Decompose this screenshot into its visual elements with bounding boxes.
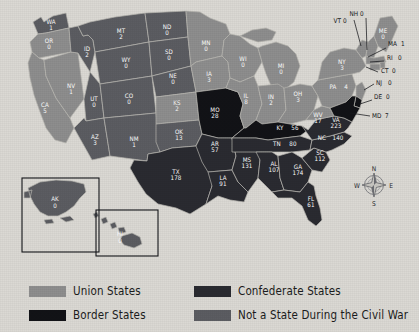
state-label-OR-value: 0	[47, 43, 51, 50]
state-label-OK-value: 13	[175, 134, 183, 141]
state-label-AZ-value: 3	[93, 139, 97, 146]
state-label-SC-value: 112	[315, 155, 326, 162]
state-label-LA-value: 91	[219, 180, 227, 187]
state-label-WY-value: 0	[124, 62, 128, 69]
callout-MA-code: MA	[388, 40, 397, 48]
callout-MD-code: MD	[372, 112, 382, 120]
state-label-MO-value: 28	[211, 112, 219, 119]
map-legend: Union States Confederate States Border S…	[0, 270, 419, 332]
inset-label-AK-value: 0	[53, 202, 57, 209]
state-label-TX-value: 178	[171, 174, 182, 181]
compass-north-label: N	[372, 165, 376, 173]
compass-west-label: W	[354, 182, 360, 190]
legend-item-union[interactable]: Union States	[29, 284, 141, 298]
state-label-KY-code: KY	[276, 124, 284, 131]
leader-line-VT	[354, 20, 361, 46]
inset-label-AK-code: AK	[51, 195, 59, 202]
inset-label-HI-code: HI	[117, 230, 123, 237]
state-label-NV-value: 1	[69, 88, 73, 95]
state-label-KS-value: 2	[175, 105, 179, 112]
callout-NJ-value: 0	[388, 79, 392, 87]
state-label-MI-value: 0	[279, 68, 283, 75]
callout-NH-value: 0	[360, 10, 364, 18]
callout-DE-value: 0	[386, 93, 390, 101]
state-label-NC-value: 140	[333, 134, 344, 141]
civil-war-battle-map: WA 1 OR 0 CA 5 NV 1 ID 2 MT 2 WY 0 UT 0 …	[0, 0, 419, 332]
state-label-NY-value: 3	[340, 64, 344, 71]
compass-east-label: E	[389, 182, 393, 190]
state-label-WI-value: 0	[241, 61, 245, 68]
state-label-UT-value: 0	[92, 101, 96, 108]
compass-rose: N E S W	[354, 165, 393, 208]
callout-MD-value: 7	[385, 112, 389, 120]
legend-swatch-confederate	[194, 286, 231, 297]
state-label-MS-value: 131	[242, 162, 253, 169]
callout-DE-code: DE	[374, 93, 382, 101]
state-label-AR-value: 57	[211, 146, 219, 153]
compass-south-label: S	[372, 200, 376, 208]
callout-VT-code: VT	[334, 17, 342, 25]
state-label-NE-value: 0	[171, 78, 175, 85]
state-label-PA-code: PA	[330, 83, 337, 90]
state-label-IA-value: 3	[207, 76, 211, 83]
callout-CT-value: 0	[392, 67, 396, 75]
callout-RI-value: 0	[398, 54, 402, 62]
leader-line-NJ	[364, 84, 374, 90]
state-label-ME-value: 0	[381, 33, 385, 40]
callout-CT-code: CT	[381, 67, 389, 75]
state-label-NC-code: NC	[318, 134, 326, 141]
state-label-IL-value: 8	[244, 98, 248, 105]
state-shape-MO[interactable]	[196, 88, 244, 138]
inset-label-HI-value: 0	[118, 237, 122, 244]
state-label-AL-value: 107	[269, 166, 280, 173]
state-label-GA-value: 174	[293, 169, 304, 176]
state-label-WA-value: 1	[49, 24, 53, 31]
callout-NH-code: NH	[349, 10, 358, 18]
legend-label-not-a-state: Not a State During the Civil War	[238, 308, 408, 322]
state-label-NM-value: 1	[132, 141, 136, 148]
state-label-SD-value: 0	[167, 54, 171, 61]
legend-item-confederate[interactable]: Confederate States	[194, 284, 341, 298]
legend-item-border[interactable]: Border States	[29, 308, 146, 322]
state-label-VA-value: 223	[331, 122, 342, 129]
state-label-TN-code: TN	[272, 140, 281, 147]
callout-MA-value: 1	[401, 40, 405, 48]
state-label-WV-value: 17	[314, 117, 322, 124]
state-label-IN-value: 2	[269, 99, 273, 106]
legend-label-union: Union States	[73, 284, 141, 298]
legend-swatch-union	[29, 286, 66, 297]
legend-label-border: Border States	[73, 308, 146, 322]
state-label-ID-value: 2	[85, 51, 89, 58]
legend-swatch-border	[29, 310, 66, 321]
callout-NJ-code: NJ	[376, 79, 382, 87]
callout-RI-code: RI	[387, 54, 393, 62]
state-label-OH-value: 3	[296, 96, 300, 103]
state-label-KY-value: 56	[291, 124, 299, 131]
callout-VT-value: 0	[343, 17, 347, 25]
legend-label-confederate: Confederate States	[238, 284, 341, 298]
hawaii-inset-box	[96, 210, 158, 256]
legend-swatch-not-a-state	[194, 310, 231, 321]
state-label-CA-value: 5	[43, 107, 47, 114]
state-label-CO-value: 0	[127, 98, 131, 105]
states-layer	[24, 11, 398, 248]
state-label-TN-value: 80	[289, 140, 297, 147]
state-label-ND-value: 0	[165, 29, 169, 36]
legend-item-not-a-state[interactable]: Not a State During the Civil War	[194, 308, 408, 322]
state-label-MN-value: 0	[204, 45, 208, 52]
state-label-MT-value: 2	[119, 33, 123, 40]
state-label-FL-value: 61	[307, 201, 315, 208]
state-label-PA-value: 4	[344, 83, 348, 90]
